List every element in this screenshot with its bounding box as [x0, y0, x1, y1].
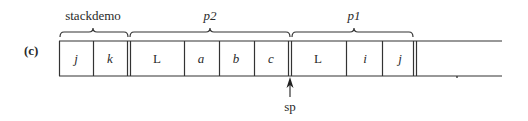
group-label-stackdemo: stackdemo	[65, 9, 121, 23]
group-label-p1: p1	[348, 9, 361, 23]
stack-cell-L: L	[153, 52, 161, 66]
sp-pointer-label: sp	[284, 100, 296, 114]
brace-stackdemo	[60, 28, 128, 37]
stack-cell-a: a	[198, 52, 205, 66]
stack-cell-L: L	[314, 52, 322, 66]
group-label-p2: p2	[204, 9, 217, 23]
brace-p1	[292, 28, 413, 37]
stack-cell-c: c	[268, 52, 274, 66]
stack-cell-b: b	[233, 52, 240, 66]
stack-cell-j: j	[74, 52, 78, 66]
brace-p2	[130, 28, 290, 37]
stack-cell-j: j	[398, 52, 402, 66]
stack-cell-i: i	[363, 52, 367, 66]
figure-part-label: (c)	[24, 43, 38, 59]
stack-cell-k: k	[107, 52, 113, 66]
